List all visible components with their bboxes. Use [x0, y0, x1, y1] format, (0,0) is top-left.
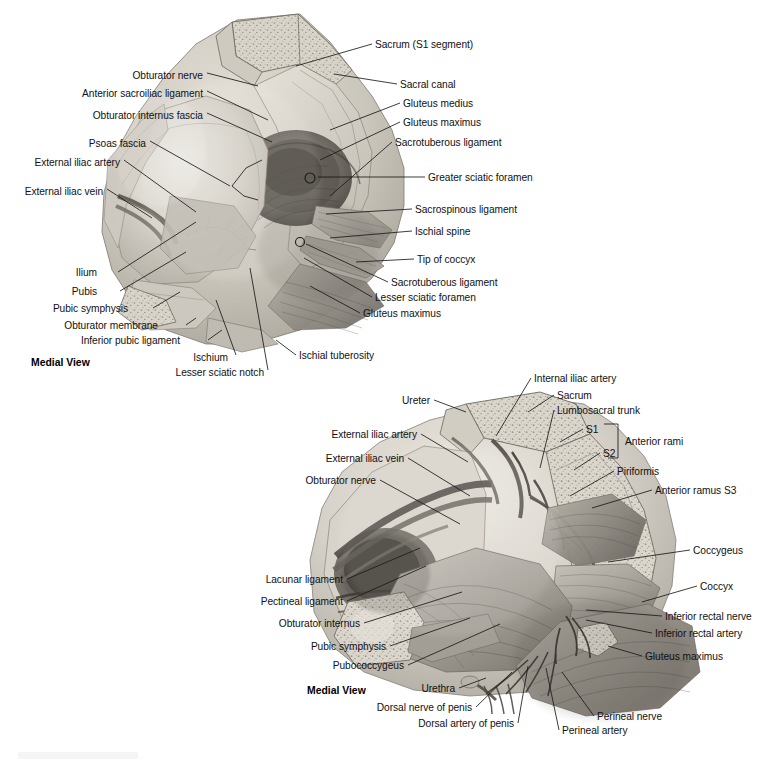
label-obturator-internus: Obturator internus [0, 618, 360, 629]
label-inferior-rectal-artery: Inferior rectal artery [655, 628, 742, 639]
label-lesser-sciatic-foramen: Lesser sciatic foramen [375, 292, 476, 303]
label-gluteus-maximus-2: Gluteus maximus [645, 651, 723, 662]
label-gluteus-medius: Gluteus medius [403, 98, 473, 109]
label-inferior-rectal-nerve: Inferior rectal nerve [665, 611, 752, 622]
label-dorsal-nerve-of-penis: Dorsal nerve of penis [0, 702, 472, 713]
label-ilium: Ilium [0, 267, 97, 278]
label-sacrotuberous-ligament-upper: Sacrotuberous ligament [395, 137, 502, 148]
label-s2: S2 [603, 448, 615, 459]
label-sacral-canal: Sacral canal [400, 79, 455, 90]
view-label-bottom: Medial View [307, 685, 366, 696]
label-inferior-pubic-ligament: Inferior pubic ligament [0, 335, 180, 346]
label-coccyx: Coccyx [700, 581, 733, 592]
label-pubic-symphysis: Pubic symphysis [0, 303, 128, 314]
label-greater-sciatic-foramen: Greater sciatic foramen [428, 172, 533, 183]
label-anterior-rami: Anterior rami [625, 436, 683, 447]
label-external-iliac-artery: External iliac artery [0, 157, 120, 168]
label-anterior-sacroiliac-ligament: Anterior sacroiliac ligament [0, 88, 203, 99]
label-obturator-nerve: Obturator nerve [0, 70, 203, 81]
label-obturator-nerve-2: Obturator nerve [0, 475, 376, 486]
label-anterior-ramus-s3: Anterior ramus S3 [655, 485, 736, 496]
label-gluteus-maximus-lower: Gluteus maximus [363, 308, 441, 319]
label-lumbosacral-trunk: Lumbosacral trunk [557, 405, 640, 416]
label-lesser-sciatic-notch: Lesser sciatic notch [0, 367, 264, 378]
label-s1: S1 [586, 424, 598, 435]
label-obturator-membrane: Obturator membrane [0, 320, 158, 331]
label-pectineal-ligament: Pectineal ligament [0, 596, 343, 607]
label-external-iliac-vein: External iliac vein [0, 186, 103, 197]
label-psoas-fascia: Psoas fascia [0, 138, 146, 149]
label-ureter: Ureter [0, 395, 430, 406]
label-sacrum-s1-segment: Sacrum (S1 segment) [375, 39, 473, 50]
view-label-top: Medial View [31, 357, 90, 368]
label-obturator-internus-fascia: Obturator internus fascia [0, 110, 203, 121]
label-perineal-nerve: Perineal nerve [597, 711, 662, 722]
label-piriformis: Piriformis [617, 466, 659, 477]
label-pubococcygeus: Pubococcygeus [0, 660, 404, 671]
label-gluteus-maximus-upper: Gluteus maximus [403, 117, 481, 128]
label-perineal-artery: Perineal artery [562, 725, 628, 736]
label-pubis: Pubis [0, 286, 97, 297]
label-external-iliac-artery-2: External iliac artery [0, 429, 417, 440]
label-lacunar-ligament: Lacunar ligament [0, 574, 343, 585]
label-sacrospinous-ligament: Sacrospinous ligament [415, 204, 517, 215]
label-ischial-tuberosity: Ischial tuberosity [299, 350, 374, 361]
label-coccygeus: Coccygeus [693, 545, 743, 556]
label-sacrotuberous-ligament-lower: Sacrotuberous ligament [391, 277, 498, 288]
atlas-page: Obturator nerve Anterior sacroiliac liga… [0, 0, 759, 765]
label-ischial-spine: Ischial spine [415, 226, 470, 237]
page-footer-mark [18, 752, 138, 759]
label-urethra: Urethra [0, 683, 455, 694]
label-pubic-symphysis-2: Pubic symphysis [0, 641, 386, 652]
label-sacrum: Sacrum [557, 390, 592, 401]
label-tip-of-coccyx: Tip of coccyx [417, 254, 475, 265]
label-dorsal-artery-of-penis: Dorsal artery of penis [0, 718, 514, 729]
label-external-iliac-vein-2: External iliac vein [0, 453, 404, 464]
label-internal-iliac-artery: Internal iliac artery [534, 373, 616, 384]
